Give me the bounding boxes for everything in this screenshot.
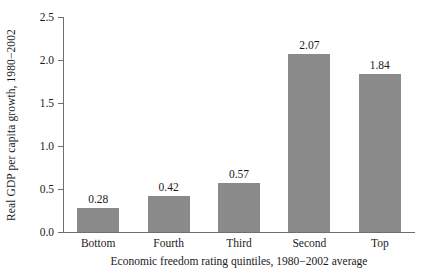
y-axis-tick-label: 1.0 xyxy=(40,140,54,152)
bar-group: 0.28Bottom xyxy=(77,17,119,232)
plot-area: 0.00.51.01.52.02.5 0.28Bottom0.42Fourth0… xyxy=(63,17,415,232)
bar-value-label: 2.07 xyxy=(299,39,319,51)
x-axis-category-label: Top xyxy=(371,237,389,249)
bar-value-label: 0.42 xyxy=(159,181,179,193)
bar-value-label: 0.28 xyxy=(88,193,108,205)
x-axis-category-label: Fourth xyxy=(153,237,184,249)
bar-group: 1.84Top xyxy=(359,17,401,232)
y-axis-tick xyxy=(58,232,63,233)
bar-group: 2.07Second xyxy=(288,17,330,232)
y-axis-tick-label: 2.5 xyxy=(40,11,54,23)
x-axis-category-label: Bottom xyxy=(81,237,116,249)
bar xyxy=(148,196,190,232)
y-axis-title-text: Real GDP per capita growth, 1980−2002 xyxy=(5,29,17,221)
y-axis-tick-label: 0.5 xyxy=(40,183,54,195)
y-axis-tick-label: 2.0 xyxy=(40,54,54,66)
y-axis-tick-label: 1.5 xyxy=(40,97,54,109)
bar xyxy=(359,74,401,232)
bar-series: 0.28Bottom0.42Fourth0.57Third2.07Second1… xyxy=(63,17,415,232)
x-axis-title: Economic freedom rating quintiles, 1980−… xyxy=(63,255,415,267)
bar-chart: Real GDP per capita growth, 1980−2002 0.… xyxy=(0,0,426,280)
bar-group: 0.57Third xyxy=(218,17,260,232)
bar xyxy=(218,183,260,232)
y-axis-tick-label: 0.0 xyxy=(40,226,54,238)
bar-group: 0.42Fourth xyxy=(148,17,190,232)
bar-value-label: 0.57 xyxy=(229,168,249,180)
bar xyxy=(288,54,330,232)
y-axis-title: Real GDP per capita growth, 1980−2002 xyxy=(0,17,22,232)
x-axis-category-label: Second xyxy=(292,237,326,249)
x-axis-line xyxy=(63,232,415,233)
bar xyxy=(77,208,119,232)
x-axis-category-label: Third xyxy=(226,237,252,249)
bar-value-label: 1.84 xyxy=(370,59,390,71)
